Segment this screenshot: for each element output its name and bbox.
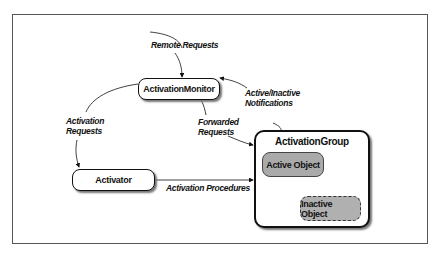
notifications-label-2: Notifications [245,98,293,108]
remote-requests-label: Remote Requests [151,40,218,50]
notifications-label-1: Active/Inactive [245,88,300,98]
activator-node[interactable]: Activator [72,169,155,191]
activation-requests-label-1: Activation [66,116,104,126]
inactive-object-node[interactable]: Inactive Object [300,196,361,221]
activation-requests-label-2: Requests [66,126,102,136]
activation-procedures-label: Activation Procedures [166,183,250,193]
forwarded-requests-label-1: Forwarded [198,117,239,127]
activation-monitor-node[interactable]: ActivationMonitor [138,78,220,100]
active-object-node[interactable]: Active Object [262,152,324,177]
forwarded-requests-label-2: Requests [198,127,234,137]
